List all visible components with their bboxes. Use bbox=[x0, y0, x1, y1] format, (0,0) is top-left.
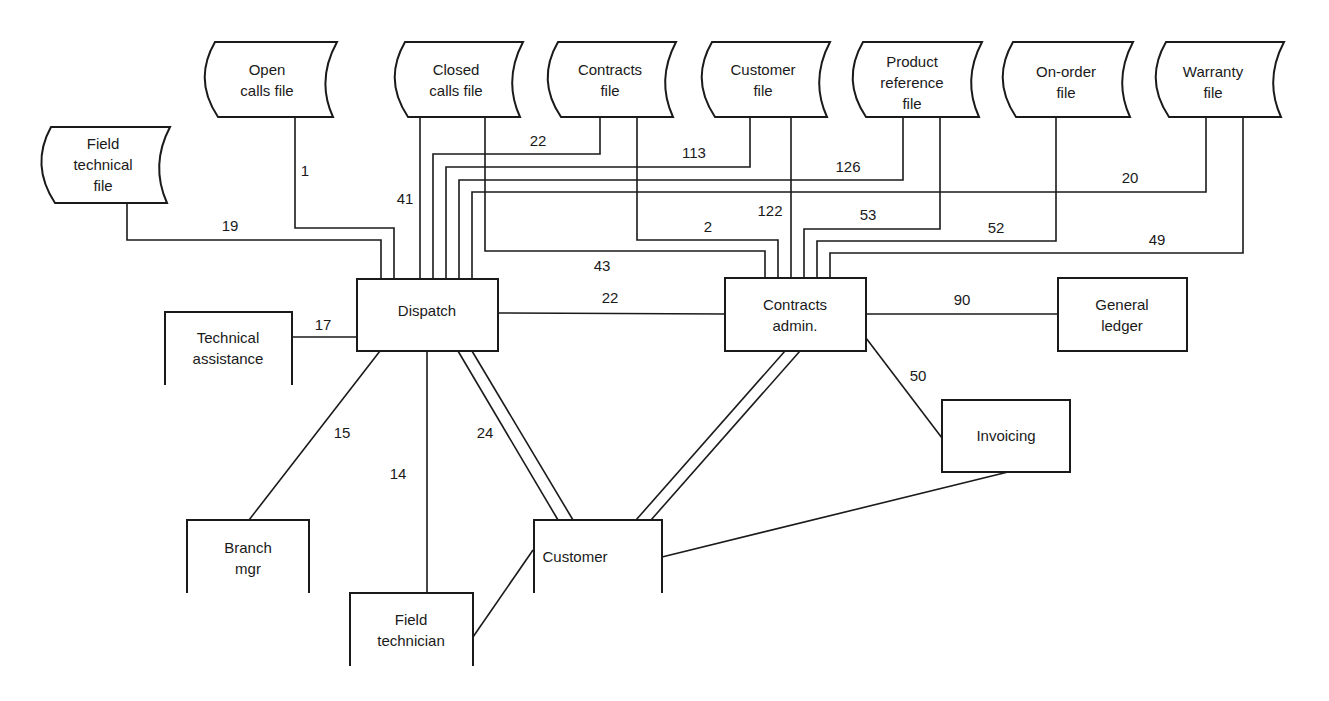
entity-label: Branch bbox=[224, 539, 272, 556]
flow-label: 14 bbox=[390, 465, 407, 482]
entity-label: Technical bbox=[197, 329, 260, 346]
process-dispatch[interactable]: Dispatch bbox=[357, 279, 498, 351]
entity-label: mgr bbox=[235, 560, 261, 577]
flow-label: 41 bbox=[397, 190, 414, 207]
file-label-line: reference bbox=[880, 74, 943, 91]
flow-line-24a bbox=[458, 351, 558, 520]
flow-label: 19 bbox=[222, 217, 239, 234]
file-shape-icon bbox=[702, 42, 830, 117]
entity-label: assistance bbox=[193, 350, 264, 367]
flow-label: 22 bbox=[530, 132, 547, 149]
process-label: Invoicing bbox=[976, 427, 1035, 444]
file-shape-icon bbox=[395, 42, 523, 117]
file-label-line: technical bbox=[73, 156, 132, 173]
flow-line-15 bbox=[249, 351, 380, 520]
entity-technical-assistance[interactable]: Technical assistance bbox=[165, 312, 292, 385]
file-label-line: Customer bbox=[730, 61, 795, 78]
flow-label: 90 bbox=[954, 291, 971, 308]
flow-line-contracts-customer-b bbox=[651, 351, 800, 520]
flow-line-53 bbox=[804, 117, 940, 278]
flow-line-43 bbox=[485, 117, 765, 278]
process-invoicing[interactable]: Invoicing bbox=[942, 400, 1070, 472]
file-field-technical[interactable]: Field technical file bbox=[41, 127, 170, 203]
flow-label: 24 bbox=[477, 424, 494, 441]
file-label-line: file bbox=[1203, 84, 1222, 101]
flow-line-22-dispatch-contracts bbox=[498, 313, 725, 314]
flow-label: 43 bbox=[594, 257, 611, 274]
flow-line-2 bbox=[637, 117, 778, 278]
flow-line-52 bbox=[817, 117, 1056, 278]
file-warranty[interactable]: Warranty file bbox=[1156, 42, 1284, 117]
file-label-line: calls file bbox=[240, 82, 293, 99]
file-customer[interactable]: Customer file bbox=[702, 42, 830, 117]
flow-label: 22 bbox=[602, 289, 619, 306]
flow-line-20 bbox=[472, 117, 1206, 279]
file-label-line: file bbox=[93, 177, 112, 194]
flow-line-invoicing-customer bbox=[662, 472, 1008, 557]
flow-label: 53 bbox=[860, 206, 877, 223]
entity-box bbox=[187, 520, 309, 593]
entity-customer[interactable]: Customer bbox=[534, 520, 662, 593]
file-label-line: Open bbox=[249, 61, 286, 78]
flow-line-22-contracts bbox=[433, 117, 600, 279]
entity-branch-mgr[interactable]: Branch mgr bbox=[187, 520, 309, 593]
file-shape-icon bbox=[205, 42, 337, 117]
entity-label: technician bbox=[377, 632, 445, 649]
file-label-line: On-order bbox=[1036, 63, 1096, 80]
process-label: General bbox=[1095, 296, 1148, 313]
file-label-line: Warranty bbox=[1183, 63, 1244, 80]
file-open-calls[interactable]: Open calls file bbox=[205, 42, 337, 117]
flow-label: 126 bbox=[835, 158, 860, 175]
process-label: Dispatch bbox=[398, 302, 456, 319]
process-label: ledger bbox=[1101, 317, 1143, 334]
file-label-line: file bbox=[902, 95, 921, 112]
process-box bbox=[725, 278, 866, 351]
flow-line-126 bbox=[459, 117, 903, 279]
flow-label: 52 bbox=[988, 219, 1005, 236]
file-contracts[interactable]: Contracts file bbox=[548, 42, 676, 117]
flow-line-fieldtech-customer bbox=[473, 550, 533, 637]
flow-line-49 bbox=[830, 117, 1243, 278]
file-stores: Field technical file Open calls file Clo… bbox=[41, 42, 1284, 203]
flow-label: 122 bbox=[757, 202, 782, 219]
flow-label: 17 bbox=[315, 316, 332, 333]
process-label: Contracts bbox=[763, 296, 827, 313]
file-on-order[interactable]: On-order file bbox=[1003, 42, 1133, 117]
flow-line-113 bbox=[446, 117, 750, 279]
file-label-line: Field bbox=[87, 135, 120, 152]
flow-label: 113 bbox=[682, 144, 706, 161]
entity-box bbox=[350, 593, 473, 666]
flow-label: 15 bbox=[334, 424, 351, 441]
data-flow-diagram: Field technical file Open calls file Clo… bbox=[0, 0, 1329, 701]
flow-line-50 bbox=[866, 338, 942, 438]
flow-label: 2 bbox=[704, 218, 712, 235]
entity-box bbox=[165, 312, 292, 385]
flow-label: 50 bbox=[910, 367, 927, 384]
file-shape-icon bbox=[548, 42, 676, 117]
file-label-line: Contracts bbox=[578, 61, 642, 78]
flow-lines bbox=[127, 117, 1243, 637]
process-contracts-admin[interactable]: Contracts admin. bbox=[725, 278, 866, 351]
flow-label: 20 bbox=[1122, 169, 1139, 186]
file-closed-calls[interactable]: Closed calls file bbox=[395, 42, 523, 117]
flow-label: 49 bbox=[1149, 231, 1166, 248]
entity-field-technician[interactable]: Field technician bbox=[350, 593, 473, 666]
entity-label: Field bbox=[395, 611, 428, 628]
file-label-line: file bbox=[1056, 84, 1075, 101]
flow-line-19 bbox=[127, 203, 381, 279]
process-general-ledger[interactable]: General ledger bbox=[1058, 278, 1187, 351]
process-box bbox=[1058, 278, 1187, 351]
processes: Dispatch Contracts admin. General ledger… bbox=[357, 278, 1187, 472]
flow-label: 1 bbox=[301, 162, 309, 179]
file-label-line: file bbox=[600, 82, 619, 99]
flow-line-1 bbox=[295, 117, 394, 279]
file-product-reference[interactable]: Product reference file bbox=[853, 42, 982, 117]
entity-label: Customer bbox=[542, 548, 607, 565]
process-label: admin. bbox=[772, 317, 817, 334]
external-entities: Technical assistance Branch mgr Field te… bbox=[165, 312, 662, 666]
file-label-line: Product bbox=[886, 53, 939, 70]
file-label-line: file bbox=[753, 82, 772, 99]
file-label-line: Closed bbox=[433, 61, 480, 78]
flow-line-contracts-customer-a bbox=[636, 351, 785, 520]
file-label-line: calls file bbox=[429, 82, 482, 99]
